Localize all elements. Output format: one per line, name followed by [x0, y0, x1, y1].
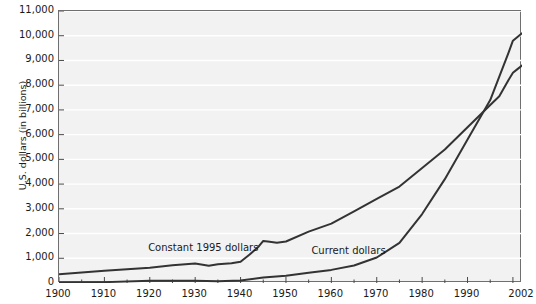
y-axis-tick-label: 9,000 — [2, 54, 54, 64]
x-axis-tick-label: 1910 — [91, 288, 116, 299]
series-line — [59, 65, 522, 274]
y-axis-tick-label: 3,000 — [2, 203, 54, 213]
x-axis-tick-label: 1950 — [272, 288, 297, 299]
y-axis-tick-label: 5,000 — [2, 153, 54, 163]
y-axis-tick-label: 1,000 — [2, 252, 54, 262]
plot-area — [58, 10, 521, 282]
y-axis-tick-label: 7,000 — [2, 104, 54, 114]
y-axis-tick-label: 11,000 — [2, 5, 54, 15]
x-axis-tick-labels: 1900191019201930194019501960197019801990… — [0, 286, 536, 304]
y-axis-tick-labels: 11,00010,0009,0008,0007,0006,0005,0004,0… — [0, 0, 54, 304]
chart-figure: U.S. dollars (in billions) 11,00010,0009… — [0, 0, 536, 304]
x-axis-tick-label: 1990 — [454, 288, 479, 299]
y-axis-tick-label: 2,000 — [2, 228, 54, 238]
x-axis-tick-label: 1980 — [408, 288, 433, 299]
x-axis-tick-label: 2002 — [508, 288, 533, 299]
y-axis-tick-label: 6,000 — [2, 129, 54, 139]
plot-svg — [59, 11, 522, 283]
series-line — [59, 33, 522, 282]
series-annotation: Current dollars — [311, 244, 385, 255]
x-axis-tick-label: 1930 — [181, 288, 206, 299]
x-axis-tick-label: 1920 — [136, 288, 161, 299]
x-axis-tick-label: 1970 — [363, 288, 388, 299]
y-axis-tick-label: 4,000 — [2, 178, 54, 188]
x-axis-tick-label: 1940 — [227, 288, 252, 299]
y-axis-tick-label: 10,000 — [2, 30, 54, 40]
y-axis-tick-label: 8,000 — [2, 79, 54, 89]
x-axis-tick-label: 1960 — [318, 288, 343, 299]
series-annotation: Constant 1995 dollars — [148, 241, 258, 252]
x-axis-tick-label: 1900 — [45, 288, 70, 299]
